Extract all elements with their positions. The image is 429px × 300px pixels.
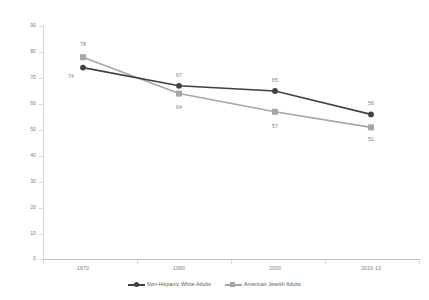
x-axis-label-1970: 1970 bbox=[48, 266, 118, 271]
legend-marker-square-icon bbox=[225, 281, 242, 288]
y-axis-line bbox=[43, 26, 44, 260]
data-point-marker bbox=[368, 112, 374, 118]
y-axis-tick bbox=[39, 208, 43, 209]
y-axis-label-90: 90 bbox=[0, 23, 36, 28]
legend-label: American Jewish Adults bbox=[244, 282, 301, 287]
y-axis-tick bbox=[39, 104, 43, 105]
data-point-marker bbox=[176, 83, 182, 89]
data-label-american-jewish-1970: 78 bbox=[71, 42, 95, 47]
y-axis-tick bbox=[39, 234, 43, 235]
x-axis-label-1990: 1990 bbox=[144, 266, 214, 271]
legend-label: Non-Hispanic White Adults bbox=[147, 282, 211, 287]
x-axis-tick bbox=[137, 260, 138, 264]
data-point-marker bbox=[80, 54, 86, 60]
legend-item-american-jewish-adults[interactable]: American Jewish Adults bbox=[225, 281, 301, 288]
x-axis-tick bbox=[231, 260, 232, 264]
data-point-marker bbox=[368, 124, 374, 130]
data-label-american-jewish-2010: 51 bbox=[359, 137, 383, 142]
data-point-marker bbox=[176, 91, 182, 97]
data-label-white-1970: 74 bbox=[59, 74, 83, 79]
data-point-marker bbox=[80, 65, 86, 71]
y-axis-label-60: 60 bbox=[0, 101, 36, 106]
y-axis-tick bbox=[39, 182, 43, 183]
y-axis-tick bbox=[39, 130, 43, 131]
series-line-non-hispanic-white-adults bbox=[83, 68, 371, 115]
y-axis-label-70: 70 bbox=[0, 75, 36, 80]
y-axis-tick bbox=[39, 52, 43, 53]
y-axis-tick bbox=[39, 26, 43, 27]
y-axis-label-30: 30 bbox=[0, 179, 36, 184]
series-line-american-jewish-adults bbox=[83, 57, 371, 127]
data-label-white-2010: 56 bbox=[359, 101, 383, 106]
x-axis-label-2000: 2000 bbox=[240, 266, 310, 271]
y-axis-label-20: 20 bbox=[0, 205, 36, 210]
chart-legend: Non-Hispanic White Adults American Jewis… bbox=[0, 281, 429, 288]
data-label-white-2000: 65 bbox=[263, 78, 287, 83]
y-axis-label-40: 40 bbox=[0, 153, 36, 158]
y-axis-label-80: 80 bbox=[0, 49, 36, 54]
line-chart: 90 80 70 60 50 40 30 20 10 0 1970 1990 2… bbox=[0, 0, 429, 300]
legend-item-non-hispanic-white-adults[interactable]: Non-Hispanic White Adults bbox=[128, 281, 211, 288]
data-point-marker bbox=[272, 88, 278, 94]
data-point-marker bbox=[272, 109, 278, 115]
legend-marker-circle-icon bbox=[128, 281, 145, 288]
x-axis-label-2010-13: 2010-13 bbox=[336, 266, 406, 271]
y-axis-label-0: 0 bbox=[0, 256, 36, 261]
data-label-american-jewish-1990: 64 bbox=[167, 105, 191, 110]
y-axis-label-50: 50 bbox=[0, 127, 36, 132]
data-label-white-1990: 67 bbox=[167, 73, 191, 78]
x-axis-tick bbox=[43, 260, 44, 264]
y-axis-tick bbox=[39, 156, 43, 157]
y-axis-label-10: 10 bbox=[0, 231, 36, 236]
x-axis-tick bbox=[325, 260, 326, 264]
x-axis-tick bbox=[419, 260, 420, 264]
series-layer bbox=[0, 0, 429, 300]
y-axis-tick bbox=[39, 78, 43, 79]
data-label-american-jewish-2000: 57 bbox=[263, 124, 287, 129]
